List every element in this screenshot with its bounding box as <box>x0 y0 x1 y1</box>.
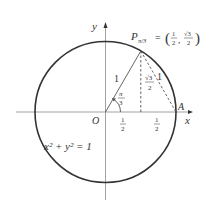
height-label: √3 2 <box>145 74 154 92</box>
svg-text:=: = <box>155 32 161 43</box>
svg-text:P: P <box>130 30 138 42</box>
origin-label: O <box>92 115 99 126</box>
chord-label: 1 <box>157 71 162 82</box>
y-axis-label: y <box>91 20 97 32</box>
svg-text:√3: √3 <box>145 74 153 82</box>
svg-text:1: 1 <box>172 30 175 37</box>
circle-equation: x² + y² = 1 <box>43 140 92 152</box>
svg-text:2: 2 <box>148 84 152 92</box>
svg-text:π: π <box>119 90 123 98</box>
point-a-label: A <box>177 101 185 112</box>
half-label-2: 1 2 <box>154 116 160 133</box>
unit-circle-diagram: y x O A P π/3 = ( 1 2 , √3 2 ) 1 1 π 3 √… <box>0 0 220 207</box>
svg-text:√3: √3 <box>184 30 191 37</box>
svg-text:2: 2 <box>187 39 190 46</box>
point-p-label: P π/3 = ( 1 2 , √3 2 ) <box>130 30 200 47</box>
open-paren: ( <box>165 30 170 47</box>
svg-text:1: 1 <box>155 116 159 124</box>
svg-text:π/3: π/3 <box>138 37 147 44</box>
svg-text:2: 2 <box>121 125 125 133</box>
svg-text:1: 1 <box>121 116 125 124</box>
svg-text:,: , <box>178 35 180 45</box>
y-axis-arrow-icon <box>104 22 108 28</box>
angle-label: π 3 <box>118 90 125 107</box>
close-paren: ) <box>195 30 200 47</box>
half-label-1: 1 2 <box>120 116 126 133</box>
svg-text:2: 2 <box>155 125 159 133</box>
radius-label: 1 <box>114 73 119 84</box>
x-axis-label: x <box>184 114 190 126</box>
svg-text:3: 3 <box>119 99 123 107</box>
svg-text:2: 2 <box>172 39 175 46</box>
radius-segment <box>106 51 141 112</box>
